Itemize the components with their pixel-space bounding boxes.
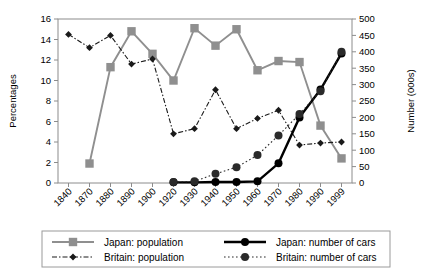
plot-area (58, 19, 352, 183)
y-axis-tick-label: 6 (46, 116, 51, 127)
data-point (296, 142, 303, 149)
data-point (316, 121, 324, 129)
data-point (254, 177, 262, 185)
data-point (127, 27, 135, 35)
legend-marker-swatch (69, 238, 77, 246)
data-point (254, 151, 262, 159)
y2-axis-tick-label: 250 (359, 95, 375, 106)
legend-item-label: Japan: number of cars (276, 237, 376, 248)
data-point (170, 130, 177, 137)
y2-axis-tick-label: 50 (359, 161, 370, 172)
x-axis-tick-label: 1870 (72, 186, 95, 209)
data-point (274, 57, 282, 65)
data-point (338, 48, 346, 56)
data-point (253, 66, 261, 74)
data-point (170, 178, 178, 186)
y-axis-tick-label: 10 (40, 75, 51, 86)
y2-axis-tick-label: 300 (359, 79, 375, 90)
x-axis-tick-label: 1890 (114, 186, 137, 209)
y-axis-tick-label: 2 (46, 157, 51, 168)
data-point (338, 139, 345, 146)
data-point (233, 178, 241, 186)
x-axis-tick-label: 1940 (198, 186, 221, 209)
y2-axis-tick-label: 500 (359, 13, 375, 24)
y-axis-tick-label: 14 (40, 34, 51, 45)
y-axis-tick-label: 4 (46, 136, 51, 147)
data-point (212, 178, 220, 186)
y2-axis-tick-label: 0 (359, 177, 364, 188)
y2-axis-title: Number (000s) (405, 69, 416, 132)
legend-item-label: Britain: population (104, 252, 184, 263)
y-axis-tick-label: 12 (40, 54, 51, 65)
legend-item-label: Britain: number of cars (276, 252, 377, 263)
data-point (212, 170, 220, 178)
data-point (233, 163, 241, 171)
y-axis-tick-label: 16 (40, 13, 51, 24)
data-point (86, 44, 93, 51)
y2-axis-tick-label: 150 (359, 128, 375, 139)
data-point (337, 154, 345, 162)
legend-marker-swatch (241, 238, 249, 246)
data-point (211, 41, 219, 49)
y-axis-title: Percentages (7, 74, 18, 128)
data-point (85, 159, 93, 167)
data-point (296, 110, 304, 118)
x-axis-tick-label: 1900 (135, 186, 158, 209)
data-point (275, 159, 283, 167)
x-axis-tick-label: 1970 (261, 186, 284, 209)
x-axis-tick-label: 1880 (93, 186, 116, 209)
y2-axis-tick-label: 400 (359, 46, 375, 57)
data-point (169, 76, 177, 84)
y2-axis-tick-label: 200 (359, 112, 375, 123)
x-axis-tick-label: 1999 (324, 186, 347, 209)
x-axis-tick-label: 1950 (219, 186, 242, 209)
data-point (275, 131, 283, 139)
data-point (275, 107, 282, 114)
series-line (69, 34, 342, 145)
data-point (254, 115, 261, 122)
x-axis-tick-label: 1840 (51, 186, 74, 209)
data-point (317, 87, 325, 95)
series-1 (85, 24, 345, 168)
series-2 (65, 31, 345, 149)
y-axis-tick-label: 0 (46, 177, 51, 188)
legend-item[interactable]: Japan: population (52, 237, 183, 248)
legend-item-label: Japan: population (104, 237, 183, 248)
chart-container: 0246810121416050100150200250300350400450… (0, 0, 430, 275)
y-axis-tick-label: 8 (46, 95, 51, 106)
data-point (190, 24, 198, 32)
data-point (191, 125, 198, 132)
data-point (106, 63, 114, 71)
data-point (212, 86, 219, 93)
y2-axis-tick-label: 450 (359, 30, 375, 41)
x-axis-tick-label: 1930 (177, 186, 200, 209)
y2-axis-tick-label: 350 (359, 63, 375, 74)
dual-axis-line-chart: 0246810121416050100150200250300350400450… (0, 0, 430, 275)
x-axis-tick-label: 1960 (240, 186, 263, 209)
data-point (65, 31, 72, 38)
data-point (232, 25, 240, 33)
data-point (191, 177, 199, 185)
x-axis-tick-label: 1920 (156, 186, 179, 209)
y2-axis-tick-label: 100 (359, 145, 375, 156)
data-point (317, 140, 324, 147)
data-point (233, 125, 240, 132)
x-axis-tick-label: 1990 (303, 186, 326, 209)
x-axis-tick-label: 1980 (282, 186, 305, 209)
legend-marker-swatch (241, 253, 249, 261)
data-point (295, 58, 303, 66)
